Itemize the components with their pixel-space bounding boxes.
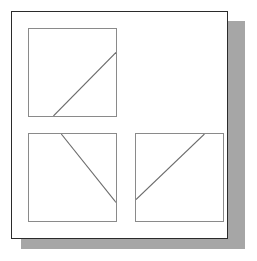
bottom-right-diagonal-line [136,134,204,199]
bottom-left-panel-line-svg [29,134,116,221]
bottom-right-panel [135,133,224,222]
bottom-left-panel [28,133,117,222]
bottom-right-panel-line-svg [136,134,223,221]
top-left-panel [28,28,117,117]
top-left-panel-line-svg [29,29,116,116]
top-left-diagonal-line [53,52,116,116]
frame-shadow-right [228,21,245,249]
frame-shadow-bottom [21,239,238,249]
figure-canvas [0,0,257,261]
bottom-left-diagonal-line [61,134,116,202]
